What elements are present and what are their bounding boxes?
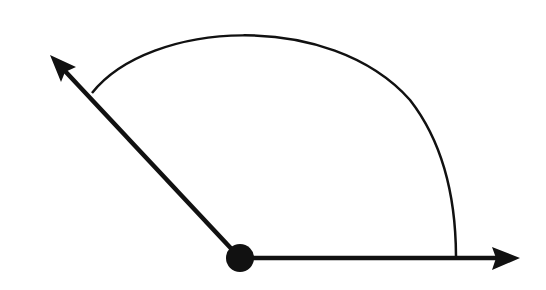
slanted-ray — [64, 70, 240, 258]
vertex-point — [226, 244, 254, 272]
arrowhead-right-icon — [492, 247, 520, 270]
angle-arc — [92, 35, 456, 258]
angle-diagram — [0, 0, 546, 290]
angle-svg — [0, 0, 546, 290]
